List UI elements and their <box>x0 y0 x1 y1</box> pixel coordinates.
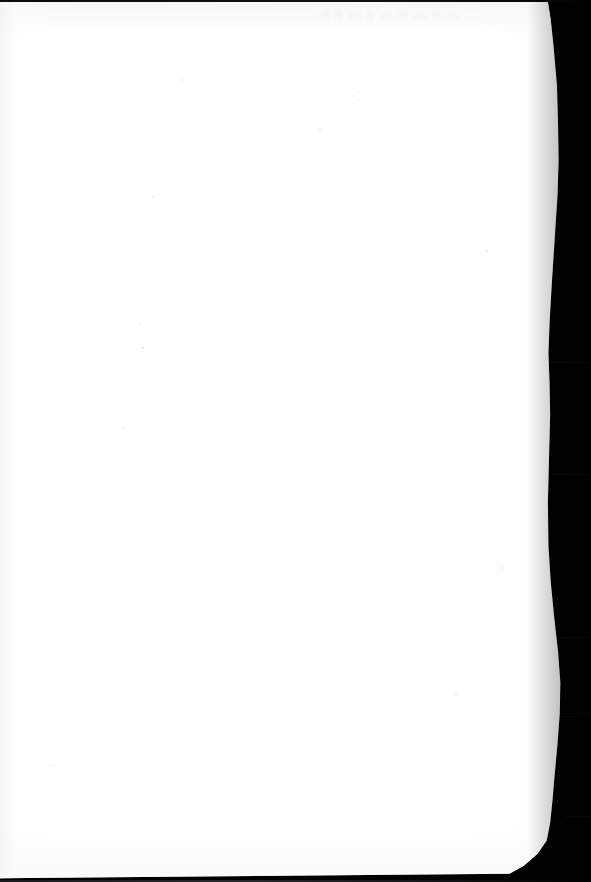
page-text-content <box>0 2 566 880</box>
paper-page <box>0 2 566 880</box>
scan-top-edge-bar <box>0 0 591 2</box>
scanned-document-viewport <box>0 0 591 882</box>
